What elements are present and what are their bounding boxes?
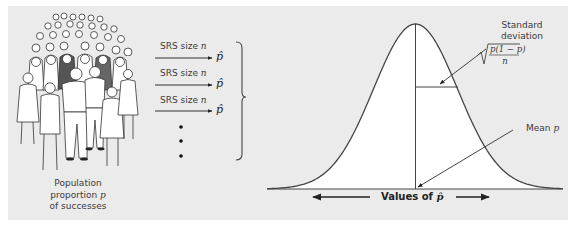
population-caption-line3: of successes bbox=[38, 201, 118, 213]
population-caption: Population proportion p of successes bbox=[38, 178, 118, 213]
mean-label: Mean p bbox=[526, 123, 559, 134]
sd-label-line1: Standard bbox=[484, 20, 560, 31]
sd-formula-numerator: p(1 − p) bbox=[490, 44, 520, 55]
p-hat-symbol: p̂ bbox=[436, 191, 443, 202]
x-axis-label: Values of p̂ bbox=[381, 191, 443, 202]
curly-brace-icon bbox=[236, 42, 246, 160]
sd-label: Standard deviation bbox=[484, 20, 560, 42]
population-caption-line1: Population bbox=[38, 178, 118, 190]
sample-label-2: SRS size n bbox=[160, 68, 207, 79]
p-hat-result-3: p̂ bbox=[216, 103, 223, 116]
population-caption-line2: proportion p bbox=[38, 190, 118, 202]
p-hat-result-1: p̂ bbox=[216, 50, 223, 63]
population-crowd-icon bbox=[17, 13, 138, 170]
p-symbol: p bbox=[100, 190, 106, 200]
p-hat-result-2: p̂ bbox=[216, 77, 223, 90]
sd-label-line2: deviation bbox=[484, 31, 560, 42]
sample-label-3: SRS size n bbox=[160, 95, 207, 106]
sampling-distribution-figure: Population proportion p of successes SRS… bbox=[0, 0, 577, 231]
continuation-dots-icon bbox=[179, 125, 183, 158]
sd-formula-denominator: n bbox=[490, 56, 520, 67]
sample-label-1: SRS size n bbox=[160, 41, 207, 52]
